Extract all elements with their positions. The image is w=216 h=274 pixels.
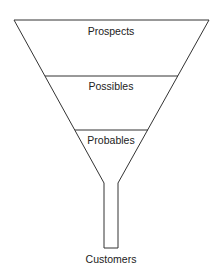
- stage-label-possibles: Possibles: [89, 80, 134, 92]
- output-label-customers: Customers: [86, 253, 137, 265]
- stage-label-probables: Probables: [87, 134, 134, 146]
- stage-label-prospects: Prospects: [88, 25, 135, 37]
